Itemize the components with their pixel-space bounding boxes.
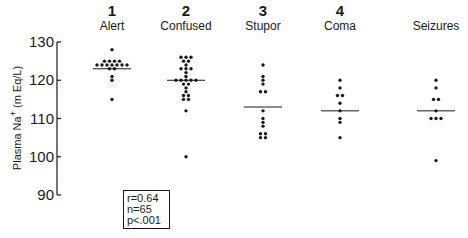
y-tick-label: 130: [29, 33, 54, 50]
data-point: [179, 56, 182, 59]
data-point: [261, 75, 264, 78]
data-point: [95, 63, 98, 66]
data-point: [108, 59, 111, 62]
group-name: Confused: [160, 19, 211, 33]
data-point: [264, 132, 267, 135]
data-point: [338, 102, 341, 105]
data-point: [434, 117, 437, 120]
data-point: [434, 109, 437, 112]
group-number: 1: [108, 2, 116, 19]
data-point: [261, 124, 264, 127]
data-point: [115, 63, 118, 66]
data-point: [184, 71, 187, 74]
data-point: [184, 79, 187, 82]
data-point: [182, 94, 185, 97]
data-point: [189, 79, 192, 82]
data-point: [184, 67, 187, 70]
data-point: [187, 94, 190, 97]
data-point: [184, 75, 187, 78]
data-point: [189, 56, 192, 59]
data-point: [434, 79, 437, 82]
data-point: [110, 79, 113, 82]
data-point: [182, 82, 185, 85]
data-point: [341, 94, 344, 97]
data-point: [429, 117, 432, 120]
data-point: [261, 117, 264, 120]
data-point: [118, 59, 121, 62]
group-name: Seizures: [413, 19, 460, 33]
data-point: [189, 67, 192, 70]
y-tick-label: 110: [30, 110, 54, 127]
data-point: [338, 86, 341, 89]
data-point: [261, 79, 264, 82]
data-point: [182, 98, 185, 101]
data-point: [338, 117, 341, 120]
data-point: [338, 136, 341, 139]
data-point: [261, 109, 264, 112]
data-point: [437, 98, 440, 101]
data-point: [338, 109, 341, 112]
data-point: [261, 63, 264, 66]
stats-p: p<.001: [127, 215, 166, 226]
data-point: [338, 121, 341, 124]
data-point: [184, 109, 187, 112]
y-tick-label: 120: [29, 71, 54, 88]
data-point: [108, 67, 111, 70]
data-point: [179, 67, 182, 70]
data-point: [184, 86, 187, 89]
data-point: [432, 98, 435, 101]
data-point: [179, 79, 182, 82]
data-point: [439, 117, 442, 120]
y-tick-label: 90: [37, 186, 54, 203]
data-point: [184, 56, 187, 59]
data-point: [113, 59, 116, 62]
stats-box: r=0.64 n=65 p<.001: [123, 190, 170, 229]
data-point: [105, 63, 108, 66]
data-point: [182, 59, 185, 62]
data-point: [110, 63, 113, 66]
sodium-consciousness-chart: 90100110120130Plasma Na+ (m Eq/L)1Alert2…: [0, 0, 468, 238]
data-point: [110, 48, 113, 51]
data-point: [184, 155, 187, 158]
data-point: [120, 63, 123, 66]
group-name: Stupor: [245, 19, 280, 33]
y-tick-label: 100: [29, 148, 54, 165]
data-point: [338, 79, 341, 82]
group-name: Coma: [324, 19, 356, 33]
group-name: Alert: [100, 19, 125, 33]
data-point: [264, 136, 267, 139]
data-point: [174, 79, 177, 82]
data-point: [434, 86, 437, 89]
data-point: [336, 94, 339, 97]
data-point: [259, 132, 262, 135]
data-point: [434, 159, 437, 162]
group-number: 3: [259, 2, 267, 19]
data-point: [187, 98, 190, 101]
data-point: [187, 82, 190, 85]
data-point: [125, 63, 128, 66]
data-point: [261, 121, 264, 124]
data-point: [110, 98, 113, 101]
data-point: [113, 67, 116, 70]
y-axis-label: Plasma Na+ (m Eq/L): [8, 66, 23, 170]
data-point: [194, 79, 197, 82]
data-point: [259, 136, 262, 139]
data-point: [184, 90, 187, 93]
group-number: 4: [336, 2, 345, 19]
data-point: [103, 59, 106, 62]
data-point: [184, 63, 187, 66]
group-number: 2: [182, 2, 190, 19]
data-point: [110, 75, 113, 78]
data-point: [264, 90, 267, 93]
data-point: [259, 90, 262, 93]
data-point: [261, 82, 264, 85]
data-point: [100, 63, 103, 66]
plot-area: 90100110120130Plasma Na+ (m Eq/L)1Alert2…: [0, 0, 468, 238]
data-point: [187, 59, 190, 62]
